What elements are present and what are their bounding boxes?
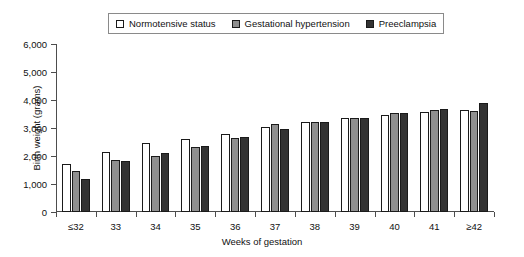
bar [280,129,289,212]
x-axis-tick-label: 39 [349,221,360,232]
legend-swatch-icon [366,20,374,28]
y-axis-tick-label: 5,000 [23,67,47,78]
x-axis-title: Weeks of gestation [0,236,524,247]
y-axis-tick-label: 0 [42,207,47,218]
legend-label: Normotensive status [129,19,216,29]
x-axis-tick-label: 35 [190,221,201,232]
y-axis-tick-label: 1,000 [23,179,47,190]
legend-item-gestational-hypertension: Gestational hypertension [232,19,350,29]
bar [271,124,280,212]
x-axis-tick [136,212,137,217]
bar [320,122,329,212]
bar [400,113,409,212]
x-axis-tick [375,212,376,217]
bar-group [102,44,130,212]
legend-swatch-icon [232,20,240,28]
bar [72,171,81,212]
legend-label: Preeclampsia [379,19,437,29]
bar [430,110,439,212]
bar [381,115,390,212]
y-axis-tick [51,100,56,101]
x-axis-tick [414,212,415,217]
bar [311,122,320,212]
bar [142,143,151,212]
bar-group [142,44,170,212]
bar [181,139,190,212]
legend-swatch-icon [116,20,124,28]
bar [62,164,71,212]
x-axis-tick-label: 34 [150,221,161,232]
bar [440,109,449,212]
y-axis-tick [51,44,56,45]
x-axis-tick [96,212,97,217]
x-axis-tick [215,212,216,217]
bar [460,110,469,212]
bar-group [460,44,488,212]
bar [221,134,230,212]
y-axis-tick-label: 2,000 [23,151,47,162]
bar [201,146,210,212]
y-axis-tick-label: 6,000 [23,39,47,50]
bar [102,152,111,212]
y-axis-tick [51,72,56,73]
plot-area: 01,0002,0003,0004,0005,0006,000 ≤3233343… [56,44,494,212]
x-axis-tick-label: ≤32 [68,221,84,232]
bar [240,137,249,212]
bar [341,118,350,212]
legend-item-normotensive-status: Normotensive status [116,19,216,29]
bar-group [261,44,289,212]
bar-group [181,44,209,212]
legend-item-preeclampsia: Preeclampsia [366,19,437,29]
bar [111,160,120,212]
bar [81,179,90,212]
x-axis-tick [295,212,296,217]
y-axis-line [56,44,57,212]
y-axis-tick-label: 4,000 [23,95,47,106]
x-axis-tick-label: 41 [429,221,440,232]
bar [261,127,270,212]
bar-group [341,44,369,212]
x-axis-tick [454,212,455,217]
y-axis-tick [51,184,56,185]
bar-group [420,44,448,212]
bar [231,138,240,212]
bar [161,153,170,212]
x-axis-tick [494,212,495,217]
bar [121,161,130,212]
y-axis-tick [51,128,56,129]
bar-group [301,44,329,212]
bar [390,113,399,212]
x-axis-tick [175,212,176,217]
bar-group [62,44,90,212]
chart-legend: Normotensive status Gestational hyperten… [108,13,444,34]
x-axis-tick-label: 40 [389,221,400,232]
bar [301,122,310,212]
bar [470,111,479,212]
bar-group [381,44,409,212]
x-axis-tick [255,212,256,217]
bar [479,103,488,212]
x-axis-tick-label: 36 [230,221,241,232]
x-axis-tick-label: 37 [270,221,281,232]
y-axis-tick-label: 3,000 [23,123,47,134]
x-axis-tick [56,212,57,217]
bar [191,147,200,212]
bar [350,118,359,212]
bar [360,118,369,212]
x-axis-tick-label: 38 [310,221,321,232]
bar-group [221,44,249,212]
x-axis-tick [335,212,336,217]
legend-label: Gestational hypertension [245,19,350,29]
x-axis-tick-label: 33 [110,221,121,232]
bar-chart: Normotensive status Gestational hyperten… [0,0,524,257]
y-axis-tick [51,156,56,157]
bar [420,112,429,212]
bar [151,156,160,212]
x-axis-tick-label: ≥42 [466,221,482,232]
